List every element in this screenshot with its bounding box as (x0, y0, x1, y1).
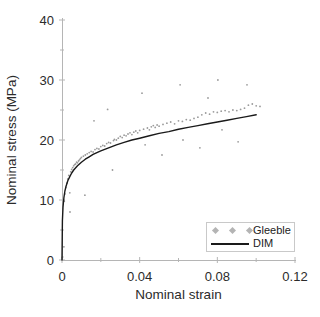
scatter-point-gleeble (244, 107, 246, 109)
scatter-point-gleeble (119, 136, 121, 138)
scatter-point-gleeble (106, 143, 108, 145)
scatter-point-gleeble (107, 109, 109, 111)
scatter-point-gleeble (162, 124, 164, 126)
scatter-point-gleeble (154, 127, 156, 129)
scatter-point-gleeble (84, 154, 86, 156)
scatter-point-gleeble (205, 112, 207, 114)
scatter-point-gleeble (217, 79, 219, 81)
legend: Gleeble DIM (206, 222, 295, 252)
scatter-point-gleeble (207, 97, 209, 99)
scatter-point-gleeble (182, 121, 184, 123)
x-tick-label: 0.08 (205, 269, 230, 284)
x-tick-label: 0.12 (282, 269, 307, 284)
scatter-point-gleeble (127, 133, 129, 135)
scatter-point-gleeble (224, 110, 226, 112)
scatter-point-gleeble (166, 122, 168, 124)
scatter-point-gleeble (69, 192, 71, 194)
scatter-point-gleeble (240, 109, 242, 111)
scatter-point-gleeble (133, 131, 135, 133)
scatter-point-gleeble (72, 167, 74, 169)
legend-entry-gleeble: Gleeble (211, 224, 291, 237)
x-tick-label: 0.04 (127, 269, 152, 284)
scatter-point-gleeble (125, 135, 127, 137)
y-tick-label: 10 (40, 193, 54, 208)
scatter-point-gleeble (216, 112, 218, 114)
scatter-point-gleeble (84, 194, 86, 196)
scatter-point-gleeble (100, 146, 102, 148)
scatter-point-gleeble (182, 139, 184, 141)
scatter-point-gleeble (131, 134, 133, 136)
scatter-point-gleeble (179, 84, 181, 86)
scatter-point-gleeble (156, 124, 158, 126)
scatter-point-gleeble (213, 111, 215, 113)
scatter-point-gleeble (83, 155, 85, 157)
y-tick-label: 0 (47, 253, 54, 268)
x-axis-title: Nominal strain (135, 287, 221, 302)
legend-label-gleeble: Gleeble (253, 224, 291, 237)
scatter-point-gleeble (102, 145, 104, 147)
scatter-point-gleeble (88, 152, 90, 154)
scatter-point-gleeble (149, 129, 151, 131)
scatter-point-gleeble (93, 120, 95, 122)
y-tick-label: 40 (40, 13, 54, 28)
scatter-point-gleeble (152, 125, 154, 127)
scatter-point-gleeble (81, 157, 83, 159)
scatter-point-gleeble (116, 139, 118, 141)
scatter-point-gleeble (259, 106, 261, 108)
chart-plot-area: 00.040.080.12010203040Nominal strainNomi… (0, 0, 320, 317)
scatter-point-gleeble (92, 151, 94, 153)
scatter-point-gleeble (161, 154, 163, 156)
scatter-point-gleeble (135, 130, 137, 132)
scatter-point-gleeble (129, 132, 131, 134)
scatter-point-gleeble (246, 84, 248, 86)
y-axis-title: Nominal stress (MPa) (4, 75, 19, 205)
y-tick-label: 20 (40, 133, 54, 148)
scatter-point-gleeble (104, 145, 106, 147)
scatter-point-gleeble (248, 104, 250, 106)
legend-label-dim: DIM (253, 237, 273, 250)
scatter-point-gleeble (137, 132, 139, 134)
scatter-point-gleeble (94, 149, 96, 151)
scatter-point-gleeble (174, 123, 176, 125)
diamond-marker-icon (246, 227, 253, 234)
gleeble-markers (211, 228, 253, 233)
dim-marker (211, 243, 253, 245)
stress-strain-chart: 00.040.080.12010203040Nominal strainNomi… (0, 0, 320, 317)
scatter-point-gleeble (193, 118, 195, 120)
scatter-point-gleeble (114, 139, 116, 141)
scatter-point-gleeble (251, 103, 253, 105)
scatter-point-gleeble (77, 162, 79, 164)
scatter-point-gleeble (108, 142, 110, 144)
scatter-point-gleeble (209, 113, 211, 115)
scatter-point-gleeble (96, 148, 98, 150)
scatter-point-gleeble (232, 109, 234, 111)
scatter-point-gleeble (220, 110, 222, 112)
diamond-marker-icon (229, 227, 236, 234)
scatter-point-gleeble (158, 125, 160, 127)
scatter-point-gleeble (98, 148, 100, 150)
scatter-point-gleeble (201, 114, 203, 116)
scatter-point-gleeble (228, 111, 230, 113)
line-marker-icon (211, 243, 249, 245)
scatter-point-gleeble (178, 120, 180, 122)
scatter-point-gleeble (199, 147, 201, 149)
scatter-point-gleeble (197, 116, 199, 118)
scatter-point-gleeble (112, 169, 114, 171)
scatter-point-gleeble (189, 119, 191, 121)
diamond-marker-icon (212, 227, 219, 234)
scatter-point-gleeble (117, 137, 119, 139)
scatter-point-gleeble (143, 128, 145, 130)
scatter-point-gleeble (237, 141, 239, 143)
scatter-point-gleeble (139, 130, 141, 132)
scatter-point-gleeble (141, 92, 143, 94)
scatter-point-gleeble (170, 121, 172, 123)
scatter-point-gleeble (150, 126, 152, 128)
scatter-point-gleeble (147, 127, 149, 129)
scatter-point-gleeble (69, 211, 71, 213)
scatter-point-gleeble (255, 105, 257, 107)
scatter-point-gleeble (75, 163, 77, 165)
scatter-point-gleeble (86, 153, 88, 155)
scatter-point-gleeble (185, 119, 187, 121)
scatter-point-gleeble (90, 151, 92, 153)
scatter-point-gleeble (236, 110, 238, 112)
